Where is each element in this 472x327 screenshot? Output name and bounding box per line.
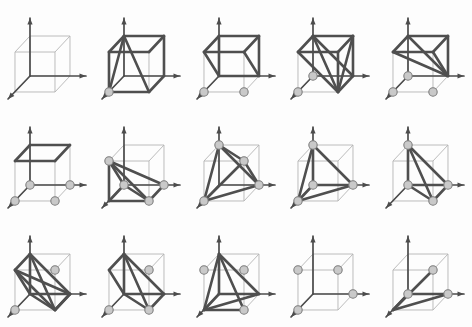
x-axis-arrowhead (174, 291, 180, 296)
x-axis-arrowhead (363, 291, 369, 296)
vertex-node-xz (145, 306, 153, 314)
coordinate-axes (102, 18, 180, 99)
vertex-node-xyz (428, 266, 436, 274)
y-axis-arrowhead (216, 127, 221, 133)
x-axis-arrowhead (174, 182, 180, 187)
x-axis-arrowhead (268, 182, 274, 187)
y-axis-arrowhead (216, 18, 221, 24)
y-axis-arrowhead (311, 127, 316, 133)
panel-12-canvas (94, 218, 188, 327)
vertex-node-x (349, 181, 357, 189)
panel-3 (189, 0, 283, 109)
x-axis-arrowhead (79, 182, 85, 187)
y-axis-arrowhead (27, 18, 32, 24)
x-axis-arrowhead (457, 73, 463, 78)
figure-grid (0, 0, 472, 327)
y-axis-arrowhead (405, 127, 410, 133)
vertex-node-z (294, 88, 302, 96)
polytope-edge (433, 36, 448, 52)
y-axis-arrowhead (405, 236, 410, 242)
polytope-edge (109, 270, 124, 294)
polytope-edges (109, 161, 164, 201)
vertex-node-x (255, 181, 263, 189)
panel-5 (378, 0, 472, 109)
panel-15 (378, 218, 472, 327)
polytope-edge (149, 76, 164, 92)
panel-11 (0, 218, 94, 327)
vertex-node-o (403, 181, 411, 189)
polytope-edge (244, 52, 259, 76)
vertex-node-x (66, 181, 74, 189)
polytope-edge (204, 52, 219, 76)
y-axis-arrowhead (311, 18, 316, 24)
vertex-node-z (11, 197, 19, 205)
panel-2 (94, 0, 188, 109)
vertex-node-xz (428, 88, 436, 96)
vertex-node-z (294, 306, 302, 314)
panel-4-canvas (283, 0, 377, 109)
vertex-node-o (26, 181, 34, 189)
vertex-node-xz (51, 197, 59, 205)
cube-edge (55, 36, 70, 52)
x-axis-arrowhead (174, 73, 180, 78)
y-axis-arrowhead (27, 127, 32, 133)
polytope-edges (408, 145, 448, 201)
vertex-node-o (403, 72, 411, 80)
panel-1 (0, 0, 94, 109)
polytope-edge (204, 36, 219, 52)
cube-edge (15, 36, 30, 52)
cube-edge (393, 254, 408, 270)
vertex-node-z (105, 306, 113, 314)
polytope-edge (298, 36, 313, 52)
y-axis-arrowhead (122, 127, 127, 133)
vertex-node-z (105, 88, 113, 96)
vertex-node-yz (294, 266, 302, 274)
vertex-node-z (200, 88, 208, 96)
panel-6-canvas (0, 109, 94, 218)
coordinate-axes (8, 127, 86, 208)
polytope-edge (149, 36, 164, 52)
vertex-node-xz (145, 197, 153, 205)
coordinate-axes (8, 18, 86, 99)
panel-2-canvas (94, 0, 188, 109)
y-axis-arrowhead (216, 236, 221, 242)
x-axis-arrowhead (79, 291, 85, 296)
y-axis-arrowhead (122, 236, 127, 242)
panel-12 (94, 218, 188, 327)
vertex-node-yz (200, 266, 208, 274)
polytope-edges (393, 270, 448, 310)
polytope-edges (15, 145, 70, 161)
vertex-node-x (443, 181, 451, 189)
vertex-node-o (120, 181, 128, 189)
vertex-node-o (403, 290, 411, 298)
vertex-nodes (105, 88, 113, 96)
x-axis-arrowhead (363, 73, 369, 78)
vertex-node-o (309, 72, 317, 80)
polytope-edge (15, 254, 30, 270)
vertex-node-o (309, 181, 317, 189)
cube-edge (149, 145, 164, 161)
vertex-node-xz (240, 306, 248, 314)
y-axis-arrowhead (122, 18, 127, 24)
panel-14 (283, 218, 377, 327)
panel-7-canvas (94, 109, 188, 218)
panel-14-canvas (283, 218, 377, 327)
panel-1-canvas (0, 0, 94, 109)
x-axis-arrowhead (79, 73, 85, 78)
vertex-nodes (294, 266, 357, 314)
x-axis-arrowhead (457, 291, 463, 296)
polytope-edge (393, 36, 408, 52)
vertex-node-xz (428, 197, 436, 205)
x-axis-arrowhead (457, 182, 463, 187)
polytope-edge (55, 294, 70, 310)
vertex-node-xyz (240, 157, 248, 165)
polytope-edge (15, 145, 30, 161)
cube-edge (433, 145, 448, 161)
polytope-edge (244, 36, 259, 52)
x-axis-arrowhead (268, 291, 274, 296)
panel-10 (378, 109, 472, 218)
polytope-edges (393, 36, 448, 76)
vertex-node-xz (240, 88, 248, 96)
panel-15-canvas (378, 218, 472, 327)
polytope-edge (55, 145, 70, 161)
